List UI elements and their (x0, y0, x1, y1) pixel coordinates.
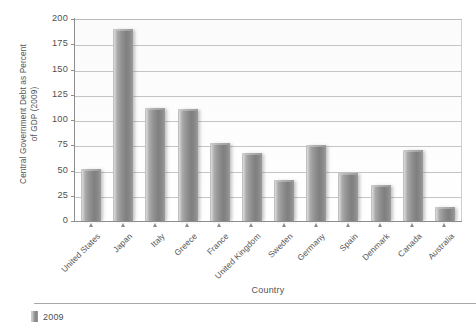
x-axis-tick-mark (185, 223, 189, 227)
y-axis-tick-mark-75 (71, 145, 75, 146)
legend-divider (34, 303, 476, 304)
y-axis-tick-labels: 0255075100125150175200 (0, 0, 476, 332)
x-axis-tick-mark (121, 223, 125, 227)
x-axis-tick-mark (410, 223, 414, 227)
y-axis-tick-label-100: 100 (38, 114, 68, 124)
y-axis-tick-label-150: 150 (38, 64, 68, 74)
y-axis-tick-mark-0 (71, 221, 75, 222)
y-axis-tick-mark-125 (71, 95, 75, 96)
x-axis-tick-mark (314, 223, 318, 227)
legend: 2009 (31, 311, 64, 322)
y-axis-tick-label-0: 0 (38, 215, 68, 225)
y-axis-tick-label-125: 125 (38, 89, 68, 99)
x-axis-tick-mark (153, 223, 157, 227)
y-axis-tick-mark-100 (71, 120, 75, 121)
legend-label-2009: 2009 (43, 312, 64, 322)
y-axis-tick-mark-200 (71, 19, 75, 20)
y-axis-tick-mark-150 (71, 70, 75, 71)
x-axis-tick-mark (249, 223, 253, 227)
y-axis-tick-mark-25 (71, 196, 75, 197)
y-axis-tick-label-50: 50 (38, 165, 68, 175)
x-axis-tick-mark (378, 223, 382, 227)
x-axis-title: Country (75, 285, 461, 295)
x-axis-tick-mark (282, 223, 286, 227)
y-axis-tick-label-25: 25 (38, 190, 68, 200)
y-axis-tick-mark-175 (71, 44, 75, 45)
bar-chart-figure: Central Government Debt as Percentof GDP… (0, 0, 476, 332)
legend-swatch-2009 (31, 311, 38, 322)
y-axis-tick-label-75: 75 (38, 139, 68, 149)
y-axis-tick-mark-50 (71, 171, 75, 172)
y-axis-tick-label-175: 175 (38, 38, 68, 48)
x-axis-tick-mark (217, 223, 221, 227)
x-axis-tick-mark (346, 223, 350, 227)
y-axis-tick-label-200: 200 (38, 13, 68, 23)
x-axis-tick-mark (442, 223, 446, 227)
x-axis-tick-mark (89, 223, 93, 227)
